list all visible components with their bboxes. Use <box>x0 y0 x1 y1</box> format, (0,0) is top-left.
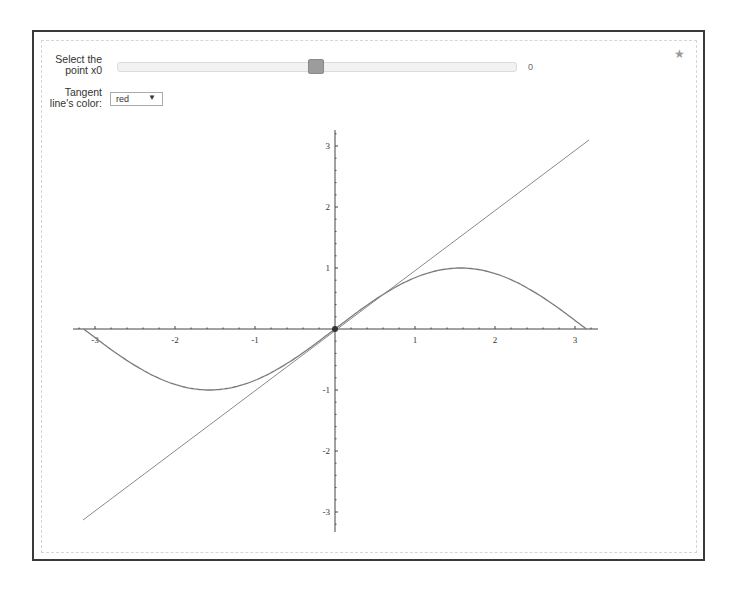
y-tick-label: 3 <box>326 141 331 151</box>
x-tick-label: 2 <box>493 335 498 345</box>
y-tick-label: -1 <box>323 385 331 395</box>
y-tick-label: 2 <box>326 202 331 212</box>
y-tick-label: -3 <box>323 507 331 517</box>
y-tick-label: -2 <box>323 446 331 456</box>
x-tick-label: 1 <box>413 335 418 345</box>
x-tick-label: -1 <box>251 335 259 345</box>
y-tick-label: 1 <box>326 263 331 273</box>
plot-area: -3 -2 -1 1 2 3 3 2 1 -1 -2 -3 <box>0 0 742 590</box>
tangent-point <box>332 326 338 332</box>
x-tick-label: 3 <box>573 335 578 345</box>
x-tick-label: -2 <box>171 335 179 345</box>
